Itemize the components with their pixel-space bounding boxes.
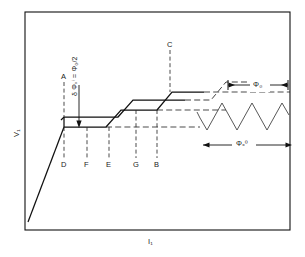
marker-label-B: B <box>154 161 159 169</box>
iv-characteristic-figure <box>0 0 305 257</box>
plot-frame <box>25 12 290 230</box>
phi-zero-label: Φ₀ <box>253 81 263 89</box>
marker-label-G: G <box>133 161 139 169</box>
marker-label-F: F <box>84 161 89 169</box>
delta-phi-annotation: δ Φₓⁱ = Φ₀/2 <box>71 56 78 96</box>
marker-label-E: E <box>106 161 111 169</box>
y-axis-label: V₁ <box>13 129 21 137</box>
x-axis-label: I₁ <box>148 238 153 246</box>
marker-label-C: C <box>167 41 173 49</box>
marker-label-D: D <box>61 161 67 169</box>
phi-x-ext-label: Φₓ⁰ <box>236 140 248 148</box>
marker-label-A: A <box>61 73 66 81</box>
